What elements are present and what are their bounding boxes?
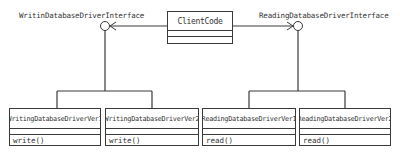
class-name: ClientCode xyxy=(168,12,232,31)
class-operation: read() xyxy=(300,135,390,146)
dependency-arrow-reading xyxy=(232,22,293,30)
class-box-client-code[interactable]: ClientCode xyxy=(167,11,233,44)
writing-interface-label: WritinDatabaseDriverInterface xyxy=(19,11,144,20)
writing-interface-lollipop-icon xyxy=(101,22,110,31)
class-box-reading-driver-ver2[interactable]: ReadingDatabaseDriverVer2 read() xyxy=(299,108,391,146)
class-operation: write() xyxy=(106,135,198,146)
dependency-arrow-writing xyxy=(110,22,167,30)
class-operations xyxy=(168,37,232,42)
class-box-writing-driver-ver2[interactable]: WritingDatabaseDriverVer2 write() xyxy=(105,108,199,146)
uml-diagram: WritinDatabaseDriverInterface ReadingDat… xyxy=(0,0,400,156)
reading-interface-label: ReadingDatabaseDriverInterface xyxy=(259,11,388,20)
reading-interface-lollipop-icon xyxy=(294,22,303,31)
reading-realization-lines xyxy=(249,31,345,109)
class-box-reading-driver-ver1[interactable]: ReadingDatabaseDriverVer1 read() xyxy=(202,108,296,146)
writing-realization-lines xyxy=(57,31,152,109)
class-box-writing-driver-ver1[interactable]: WritingDatabaseDriverVer1 write() xyxy=(9,108,101,146)
class-name: WritingDatabaseDriverVer1 xyxy=(10,109,100,129)
class-name: ReadingDatabaseDriverVer2 xyxy=(300,109,390,129)
class-name: ReadingDatabaseDriverVer1 xyxy=(203,109,295,129)
class-operation: read() xyxy=(203,135,295,146)
class-name: WritingDatabaseDriverVer2 xyxy=(106,109,198,129)
class-operation: write() xyxy=(10,135,100,146)
